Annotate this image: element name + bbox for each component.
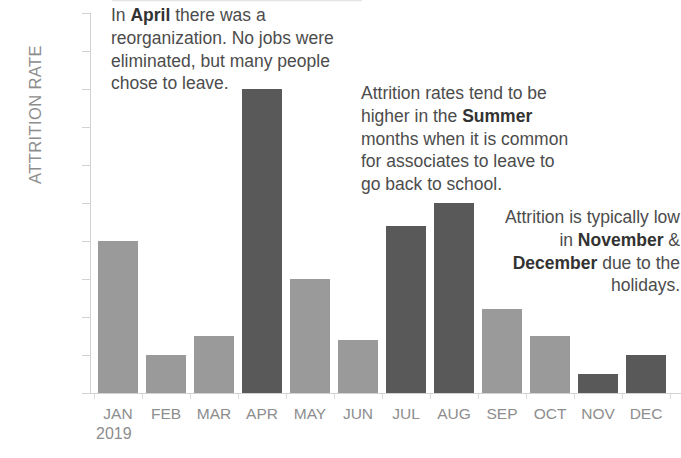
- x-axis-tick: [190, 394, 191, 399]
- annotation-text: &: [663, 230, 680, 250]
- x-axis-tick: [430, 394, 431, 399]
- y-axis-tick: [82, 51, 90, 52]
- annotation-summer: Attrition rates tend to be higher in the…: [361, 82, 576, 196]
- x-axis-tick: [238, 394, 239, 399]
- annotation-april: In April there was a reorganization. No …: [111, 4, 363, 95]
- x-axis-tick: [94, 394, 95, 399]
- annotation-november-december: Attrition is typically low in November &…: [492, 206, 680, 297]
- x-axis-tick: [670, 394, 671, 399]
- x-axis-label-nov: NOV: [574, 405, 622, 423]
- x-axis-label-jun: JUN: [334, 405, 382, 423]
- x-axis-label-feb: FEB: [142, 405, 190, 423]
- y-axis-tick: [82, 241, 90, 242]
- x-axis-label-dec: DEC: [622, 405, 670, 423]
- attrition-rate-bar-chart: ATTRITION RATE 1.0%0.9%0.8%0.7%0.6%0.5%0…: [0, 0, 681, 458]
- bar-sep: [482, 309, 522, 393]
- annotation-emphasis: December: [513, 253, 598, 273]
- y-axis-line: [90, 13, 91, 394]
- x-axis-label-aug: AUG: [430, 405, 478, 423]
- x-axis-label-mar: MAR: [190, 405, 238, 423]
- y-axis-tick: [82, 165, 90, 166]
- x-axis-label-sep: SEP: [478, 405, 526, 423]
- x-axis-label-may: MAY: [286, 405, 334, 423]
- y-axis-tick: [82, 203, 90, 204]
- x-axis-tick: [286, 394, 287, 399]
- annotation-text: months when it is common for associates …: [361, 129, 568, 195]
- y-axis-tick: [82, 317, 90, 318]
- y-axis-tick: [82, 279, 90, 280]
- annotation-emphasis: November: [578, 230, 664, 250]
- x-axis-tick: [142, 394, 143, 399]
- x-axis-label-jan: JAN: [94, 405, 142, 423]
- y-axis-tick: [82, 89, 90, 90]
- x-axis-tick: [382, 394, 383, 399]
- bar-may: [290, 279, 330, 393]
- x-axis-line: [90, 393, 681, 394]
- bar-jan: [98, 241, 138, 393]
- y-axis-tick: [82, 355, 90, 356]
- bar-jun: [338, 340, 378, 393]
- annotation-emphasis: Summer: [462, 106, 532, 126]
- x-axis-tick: [574, 394, 575, 399]
- y-axis-tick: [82, 127, 90, 128]
- x-axis-tick: [622, 394, 623, 399]
- annotation-text: In: [111, 5, 130, 25]
- annotation-emphasis: April: [130, 5, 170, 25]
- bar-apr: [242, 89, 282, 393]
- y-axis-tick: [82, 13, 90, 14]
- cropped-text-artifact: [112, 0, 362, 2]
- x-axis-label-oct: OCT: [526, 405, 574, 423]
- bar-feb: [146, 355, 186, 393]
- bar-nov: [578, 374, 618, 393]
- bar-jul: [386, 226, 426, 393]
- x-axis-label-jul: JUL: [382, 405, 430, 423]
- bar-oct: [530, 336, 570, 393]
- x-axis-label-apr: APR: [238, 405, 286, 423]
- annotation-text: due to the holidays.: [597, 253, 680, 296]
- y-axis-tick: [82, 393, 90, 394]
- bar-dec: [626, 355, 666, 393]
- x-axis-year-label: 2019: [96, 425, 132, 443]
- x-axis-tick: [478, 394, 479, 399]
- y-axis-title: ATTRITION RATE: [26, 0, 45, 230]
- bar-mar: [194, 336, 234, 393]
- x-axis-tick: [526, 394, 527, 399]
- bar-aug: [434, 203, 474, 393]
- x-axis-tick: [334, 394, 335, 399]
